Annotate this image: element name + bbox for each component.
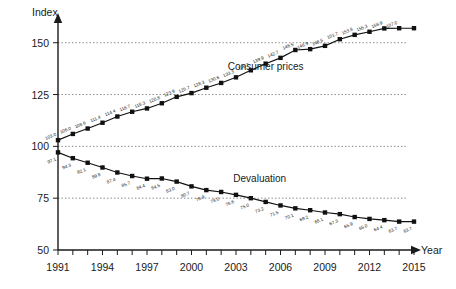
svg-text:2006: 2006: [269, 261, 293, 273]
svg-text:146.5: 146.5: [282, 42, 295, 51]
series-annotations: Consumer pricesDevaluation: [228, 61, 304, 184]
svg-text:128.3: 128.3: [193, 79, 206, 88]
svg-text:63.7: 63.7: [403, 226, 414, 234]
svg-text:114.4: 114.4: [104, 108, 117, 117]
svg-text:130.6: 130.6: [208, 75, 221, 84]
svg-text:67.3: 67.3: [329, 218, 340, 226]
svg-text:97.1: 97.1: [47, 157, 58, 165]
svg-text:2015: 2015: [402, 261, 426, 273]
data-point-labels: 103.0106.0108.6111.4114.4116.7118.3120.8…: [44, 20, 413, 234]
svg-text:Devaluation: Devaluation: [233, 173, 286, 184]
data-series: [56, 26, 416, 224]
svg-text:73.2: 73.2: [254, 206, 265, 214]
svg-text:83.0: 83.0: [165, 186, 176, 194]
svg-text:71.5: 71.5: [269, 210, 280, 218]
chart-container: 5075100125150 19911994199720002003200620…: [0, 0, 456, 289]
svg-text:2012: 2012: [358, 261, 382, 273]
svg-text:125: 125: [31, 89, 49, 101]
x-axis-title: Year: [421, 244, 443, 256]
svg-text:75.0: 75.0: [240, 202, 251, 210]
y-axis-ticks: 5075100125150: [31, 37, 58, 256]
svg-text:2000: 2000: [180, 261, 204, 273]
svg-text:76.6: 76.6: [225, 199, 236, 207]
svg-text:63.7: 63.7: [388, 226, 399, 234]
svg-text:84.5: 84.5: [151, 183, 162, 191]
svg-text:125.7: 125.7: [178, 85, 191, 94]
svg-text:78.9: 78.9: [195, 194, 206, 202]
svg-text:85.7: 85.7: [121, 180, 132, 188]
svg-text:111.4: 111.4: [89, 114, 101, 123]
svg-text:148.5: 148.5: [311, 37, 324, 46]
svg-text:Consumer prices: Consumer prices: [228, 61, 304, 72]
svg-text:65.0: 65.0: [358, 223, 369, 231]
index-devaluation-line-chart: 5075100125150 19911994199720002003200620…: [0, 0, 456, 289]
svg-text:65.9: 65.9: [343, 221, 354, 229]
svg-text:150: 150: [31, 37, 49, 49]
svg-text:89.8: 89.8: [91, 172, 102, 180]
svg-text:50: 50: [37, 244, 49, 256]
svg-text:68.1: 68.1: [314, 217, 325, 225]
svg-text:116.7: 116.7: [119, 103, 132, 112]
svg-text:92.1: 92.1: [76, 167, 87, 175]
svg-text:120.8: 120.8: [148, 95, 161, 104]
svg-text:87.4: 87.4: [106, 177, 117, 185]
svg-text:146.9: 146.9: [297, 41, 310, 50]
svg-text:75: 75: [37, 192, 49, 204]
svg-text:1997: 1997: [135, 261, 159, 273]
svg-text:78.0: 78.0: [210, 196, 221, 204]
svg-text:142.7: 142.7: [267, 49, 280, 58]
svg-text:118.3: 118.3: [134, 100, 147, 109]
svg-text:108.6: 108.6: [74, 120, 87, 129]
svg-text:2009: 2009: [313, 261, 337, 273]
x-axis-ticks: 199119941997200020032006200920122015: [46, 250, 426, 273]
svg-text:1994: 1994: [91, 261, 115, 273]
svg-text:84.4: 84.4: [136, 183, 147, 191]
svg-text:94.3: 94.3: [62, 162, 73, 170]
svg-text:106.0: 106.0: [59, 126, 72, 135]
svg-text:123.9: 123.9: [163, 88, 176, 97]
svg-text:100: 100: [31, 140, 49, 152]
svg-text:103.0: 103.0: [44, 132, 57, 141]
svg-text:80.7: 80.7: [180, 190, 191, 198]
svg-text:2003: 2003: [224, 261, 248, 273]
svg-text:157.0: 157.0: [386, 20, 399, 29]
svg-text:64.4: 64.4: [373, 224, 384, 232]
y-axis-title: Index: [32, 6, 58, 18]
svg-text:70.1: 70.1: [284, 212, 295, 220]
svg-text:155.3: 155.3: [356, 23, 369, 32]
svg-text:69.2: 69.2: [299, 214, 310, 222]
svg-text:1991: 1991: [46, 261, 70, 273]
svg-text:153.8: 153.8: [341, 26, 354, 35]
svg-text:156.9: 156.9: [371, 20, 384, 29]
svg-text:151.7: 151.7: [326, 31, 339, 40]
